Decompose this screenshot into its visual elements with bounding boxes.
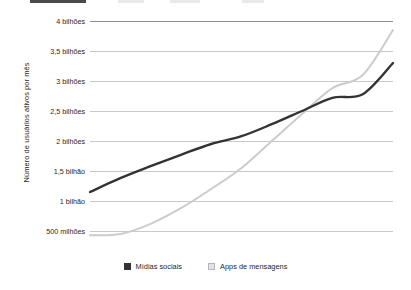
legend-label: Apps de mensagens [220, 262, 287, 271]
series-lines [90, 0, 398, 258]
y-axis-tick-label: 1 bilhão [5, 197, 85, 206]
y-axis-tick-labels: 4 bilhões3,5 bilhões3 bilhões2,5 bilhões… [0, 21, 85, 231]
light-square-icon [208, 263, 215, 270]
y-axis-tick-label: 3,5 bilhões [5, 47, 85, 56]
dark-square-icon [124, 263, 131, 270]
y-axis-tick-label: 3 bilhões [5, 77, 85, 86]
legend-item[interactable]: Mídias sociais [124, 262, 182, 271]
y-axis-tick-label: 4 bilhões [5, 17, 85, 26]
y-axis-tick-label: 1,5 bilhão [5, 167, 85, 176]
y-axis-tick-label: 500 milhões [5, 227, 85, 236]
series-line [90, 30, 393, 235]
legend-label: Mídias sociais [136, 262, 182, 271]
chart-root: Número de usuários ativos por mês 4 bilh… [0, 0, 411, 290]
y-axis-tick-label: 2 bilhões [5, 137, 85, 146]
chart-legend: Mídias sociaisApps de mensagens [0, 262, 411, 271]
cropped-header-bar [30, 0, 86, 3]
y-axis-tick-label: 2,5 bilhões [5, 107, 85, 116]
legend-item[interactable]: Apps de mensagens [208, 262, 287, 271]
